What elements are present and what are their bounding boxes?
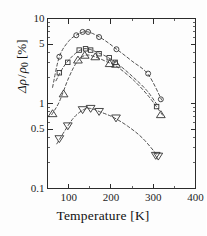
- y-axis-label: Δρ / ρ0 [%]: [14, 0, 30, 136]
- y-axis-label-subscript: 0: [20, 62, 30, 67]
- fit-curve-circle: [53, 32, 162, 100]
- x-tick-label-200: 200: [91, 192, 131, 203]
- x-axis-label: Temperature [K]: [0, 208, 206, 224]
- y-axis-label-unit: [%]: [14, 39, 29, 59]
- marker-triangle-up: [156, 111, 165, 118]
- figure-container: 10 5 1 0.5 0.1 100 200 300 400 Temperatu…: [0, 0, 206, 236]
- marker-triangle-down: [63, 123, 72, 130]
- data-markers: [48, 29, 165, 160]
- marker-triangle-up: [59, 90, 68, 97]
- x-tick-label-400: 400: [176, 192, 207, 203]
- x-tick-label-300: 300: [133, 192, 173, 203]
- fit-curves: [52, 32, 163, 156]
- marker-circle: [146, 71, 151, 76]
- y-axis-label-denominator: ρ: [14, 67, 29, 73]
- y-axis-label-numerator: Δρ: [14, 79, 29, 93]
- fit-curve-triangle-down: [57, 108, 158, 155]
- x-tick-label-100: 100: [49, 192, 89, 203]
- axis-frame: [48, 19, 196, 189]
- axis-ticks: [48, 19, 196, 189]
- plot-frame: [48, 19, 196, 189]
- marker-circle: [57, 54, 62, 59]
- y-tick-label-0.1: 0.1: [6, 183, 45, 194]
